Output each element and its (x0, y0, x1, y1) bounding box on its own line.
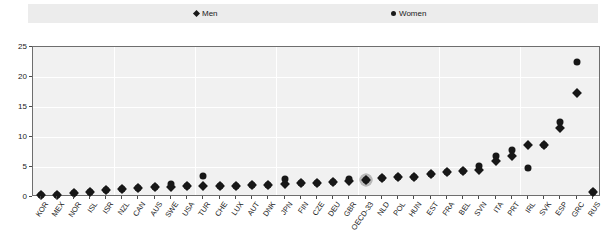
x-axis-tick-label: HUN (407, 200, 424, 218)
data-point-women[interactable] (443, 169, 450, 176)
x-axis-tick-mark (511, 196, 512, 199)
chart-container: Men Women 0510152025 KORMEXNORISLISRNZLC… (0, 0, 613, 240)
data-point-women[interactable] (541, 142, 548, 149)
x-axis-tick-label: FRA (440, 200, 456, 217)
data-point-men[interactable] (523, 140, 533, 150)
x-axis-tick-label: AUS (148, 200, 164, 218)
data-point-women[interactable] (411, 173, 418, 180)
gridline-vertical (358, 47, 359, 195)
x-axis-tick-mark (105, 196, 106, 199)
data-point-women[interactable] (249, 182, 256, 189)
data-point-women[interactable] (476, 163, 483, 170)
x-axis-tick-label: RUS (586, 200, 602, 218)
x-axis-tick-mark (478, 196, 479, 199)
data-point-women[interactable] (492, 152, 499, 159)
data-point-women[interactable] (427, 171, 434, 178)
data-point-men[interactable] (572, 88, 582, 98)
data-point-women[interactable] (216, 182, 223, 189)
data-point-women[interactable] (557, 119, 564, 126)
circle-marker-icon (391, 11, 396, 16)
x-axis-tick-label: ESP (554, 200, 570, 217)
x-axis-tick-label: DEU (326, 200, 342, 218)
y-axis: 0510152025 (0, 40, 32, 202)
x-axis-tick-mark (365, 196, 366, 199)
x-axis-tick-mark (332, 196, 333, 199)
legend-item-men: Men (194, 4, 218, 23)
x-axis-tick-label: NLD (375, 200, 391, 217)
y-axis-tick-label: 10 (18, 132, 27, 141)
x-axis-tick-mark (300, 196, 301, 199)
data-point-women[interactable] (460, 168, 467, 175)
x-axis-tick-label: MEX (50, 200, 67, 218)
x-axis-tick-mark (267, 196, 268, 199)
x-axis-tick-label: CZE (310, 200, 326, 217)
x-axis-tick-label: IRL (523, 200, 537, 215)
data-point-women[interactable] (346, 176, 353, 183)
gridline-vertical (276, 47, 277, 195)
y-axis-tick-label: 0 (23, 192, 27, 201)
x-axis-tick-label: FIN (296, 200, 310, 215)
x-axis: KORMEXNORISLISRNZLCANAUSSWEUSATURCHELUXA… (32, 196, 600, 240)
x-axis-tick-label: SWE (163, 200, 180, 219)
diamond-marker-icon (193, 10, 200, 17)
x-axis-tick-label: SVK (538, 200, 554, 217)
x-axis-tick-mark (397, 196, 398, 199)
x-axis-tick-mark (527, 196, 528, 199)
x-axis-tick-label: BEL (457, 200, 473, 217)
x-axis-tick-mark (462, 196, 463, 199)
data-point-women[interactable] (151, 184, 158, 191)
data-point-women[interactable] (297, 180, 304, 187)
x-axis-tick-mark (40, 196, 41, 199)
x-axis-tick-mark (56, 196, 57, 199)
data-point-women[interactable] (119, 186, 126, 193)
gridline-vertical (114, 47, 115, 195)
data-point-women[interactable] (508, 147, 515, 154)
gridline-horizontal (33, 107, 599, 108)
x-axis-tick-label: TUR (197, 200, 213, 218)
data-point-women[interactable] (524, 165, 531, 172)
x-axis-tick-mark (202, 196, 203, 199)
data-point-women[interactable] (103, 187, 110, 194)
data-point-women[interactable] (135, 185, 142, 192)
x-axis-tick-mark (576, 196, 577, 199)
x-axis-tick-label: ITA (491, 200, 505, 214)
x-axis-tick-mark (316, 196, 317, 199)
data-point-women[interactable] (589, 189, 596, 196)
y-axis-tick-label: 5 (23, 162, 27, 171)
x-axis-tick-label: LUX (229, 200, 245, 217)
data-point-women[interactable] (184, 183, 191, 190)
data-point-women[interactable] (314, 179, 321, 186)
data-point-women[interactable] (362, 176, 369, 183)
x-axis-tick-label: GRC (569, 200, 586, 219)
x-axis-tick-mark (219, 196, 220, 199)
x-axis-tick-mark (186, 196, 187, 199)
gridline-horizontal (33, 77, 599, 78)
y-axis-tick-label: 20 (18, 72, 27, 81)
data-point-women[interactable] (200, 173, 207, 180)
x-axis-tick-label: SVN (472, 200, 488, 218)
x-axis-tick-mark (121, 196, 122, 199)
data-point-women[interactable] (395, 174, 402, 181)
x-axis-tick-label: JPN (278, 200, 294, 217)
x-axis-tick-mark (543, 196, 544, 199)
x-axis-tick-mark (381, 196, 382, 199)
x-axis-tick-mark (430, 196, 431, 199)
x-axis-tick-label: CAN (131, 200, 147, 218)
x-axis-tick-label: POL (392, 200, 408, 217)
x-axis-tick-mark (251, 196, 252, 199)
x-axis-tick-label: AUT (245, 200, 261, 217)
x-axis-tick-mark (559, 196, 560, 199)
data-point-women[interactable] (330, 179, 337, 186)
data-point-women[interactable] (265, 182, 272, 189)
data-point-women[interactable] (86, 188, 93, 195)
data-point-women[interactable] (232, 182, 239, 189)
data-point-women[interactable] (167, 180, 174, 187)
data-point-women[interactable] (281, 176, 288, 183)
x-axis-tick-mark (413, 196, 414, 199)
data-point-women[interactable] (378, 175, 385, 182)
data-point-men[interactable] (198, 181, 208, 191)
y-axis-tick-label: 15 (18, 102, 27, 111)
x-axis-tick-mark (170, 196, 171, 199)
data-point-women[interactable] (573, 59, 580, 66)
x-axis-tick-label: PRT (505, 200, 521, 217)
